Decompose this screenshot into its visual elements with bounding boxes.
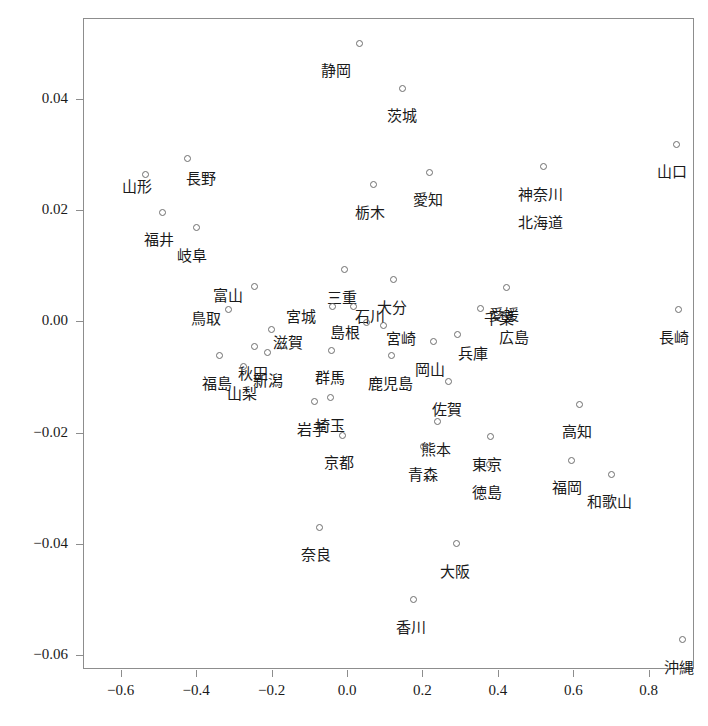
y-axis-tick <box>76 321 83 322</box>
data-point-label: 滋賀 <box>273 336 303 351</box>
data-point-label: 奈良 <box>301 548 331 563</box>
data-point <box>251 343 258 350</box>
data-point <box>540 163 547 170</box>
data-point-label: 富山 <box>213 289 243 304</box>
data-point <box>568 457 575 464</box>
data-point <box>316 524 323 531</box>
y-axis-tick <box>76 544 83 545</box>
data-point <box>240 363 247 370</box>
x-axis-tick-label: −0.4 <box>156 682 236 699</box>
data-point-label: 沖縄 <box>664 661 694 676</box>
data-point-label: 島根 <box>330 326 360 341</box>
data-point <box>193 224 200 231</box>
data-point <box>445 378 452 385</box>
data-point-label: 静岡 <box>321 64 351 79</box>
x-axis-tick-label: 0.0 <box>307 682 387 699</box>
data-point-label: 岐阜 <box>177 249 207 264</box>
data-point-label: 香川 <box>396 621 426 636</box>
data-point-label: 神奈川 <box>518 188 563 203</box>
data-point <box>503 284 510 291</box>
scatter-plot-figure: 0.040.020.00−0.02−0.04−0.06−0.6−0.4−0.20… <box>0 0 708 726</box>
y-axis-tick-label: −0.04 <box>5 535 68 552</box>
data-point-label: 鹿児島 <box>368 377 413 392</box>
data-point-label: 群馬 <box>315 371 345 386</box>
data-point-label: 福井 <box>144 233 174 248</box>
data-point-label: 山口 <box>657 165 687 180</box>
x-axis-tick-label: 0.6 <box>533 682 613 699</box>
data-point <box>370 181 377 188</box>
x-axis-tick <box>196 670 197 677</box>
data-point-label: 京都 <box>324 456 354 471</box>
data-point-label: 山梨 <box>227 387 257 402</box>
x-axis-tick-label: 0.2 <box>382 682 462 699</box>
data-point-label: 愛知 <box>413 193 443 208</box>
y-axis-tick-label: −0.02 <box>5 424 68 441</box>
data-point-label: 兵庫 <box>458 347 488 362</box>
data-point-label: 北海道 <box>518 216 563 231</box>
data-point <box>159 209 166 216</box>
data-point-label: 長崎 <box>659 331 689 346</box>
data-point <box>608 471 615 478</box>
data-point <box>356 40 363 47</box>
y-axis-tick-label: 0.02 <box>5 201 68 218</box>
data-point <box>328 347 335 354</box>
data-point <box>268 326 275 333</box>
x-axis-tick-label: −0.2 <box>232 682 312 699</box>
x-axis-tick <box>649 670 650 677</box>
data-point <box>388 352 395 359</box>
y-axis-tick <box>76 99 83 100</box>
y-axis-tick-label: 0.00 <box>5 312 68 329</box>
x-axis-tick-label: 0.8 <box>609 682 689 699</box>
data-point-label: 福岡 <box>552 481 582 496</box>
data-point <box>399 85 406 92</box>
data-point <box>251 283 258 290</box>
data-point-label: 山形 <box>122 180 152 195</box>
y-axis-tick-label: −0.06 <box>5 646 68 663</box>
data-point-label: 鳥取 <box>191 312 221 327</box>
data-point-label: 徳島 <box>472 486 502 501</box>
data-point <box>327 394 334 401</box>
x-axis-tick <box>573 670 574 677</box>
data-point-label: 青森 <box>408 468 438 483</box>
data-point <box>225 306 232 313</box>
data-point-label: 長野 <box>186 172 216 187</box>
data-point-label: 大阪 <box>440 565 470 580</box>
data-point-label: 佐賀 <box>432 403 462 418</box>
data-point <box>486 461 493 468</box>
y-axis-tick <box>76 433 83 434</box>
x-axis-tick <box>272 670 273 677</box>
data-point-label: 宮崎 <box>386 332 416 347</box>
data-point-label: 岡山 <box>415 363 445 378</box>
x-axis-tick <box>121 670 122 677</box>
data-point-label: 広島 <box>499 331 529 346</box>
data-point-label: 新潟 <box>253 374 283 389</box>
x-axis-tick <box>498 670 499 677</box>
data-point-label: 栃木 <box>355 206 385 221</box>
data-point <box>339 432 346 439</box>
x-axis-tick <box>422 670 423 677</box>
data-point-label: 茨城 <box>387 109 417 124</box>
data-point-label: 和歌山 <box>587 495 632 510</box>
data-point-label: 高知 <box>562 425 592 440</box>
x-axis-tick <box>347 670 348 677</box>
y-axis-tick <box>76 655 83 656</box>
data-point <box>499 311 506 318</box>
data-point <box>576 401 583 408</box>
x-axis-tick-label: 0.4 <box>458 682 538 699</box>
data-point-label: 宮城 <box>286 310 316 325</box>
y-axis-tick <box>76 210 83 211</box>
data-point <box>410 596 417 603</box>
y-axis-tick-label: 0.04 <box>5 90 68 107</box>
data-point <box>673 141 680 148</box>
x-axis-tick-label: −0.6 <box>81 682 161 699</box>
